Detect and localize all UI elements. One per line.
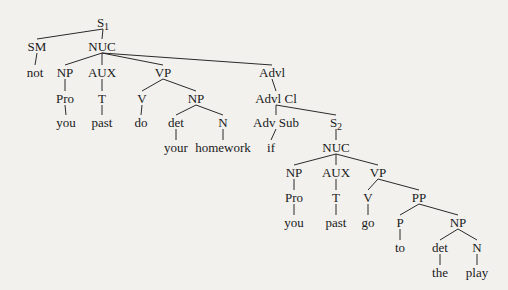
tree-node-to: to (395, 241, 405, 254)
edge-np2-n1 (196, 105, 223, 115)
node-label: SM (28, 39, 47, 54)
edge-vp2-pp (378, 179, 419, 190)
tree-node-advl: Advl (259, 66, 285, 79)
tree-node-n1: N (218, 116, 227, 129)
tree-node-s1: S1 (97, 16, 109, 29)
node-label: past (326, 215, 347, 230)
node-label: VP (155, 65, 172, 80)
node-label: you (284, 215, 304, 230)
node-label: NP (188, 91, 205, 106)
node-label: do (135, 115, 148, 130)
node-label: VP (370, 165, 387, 180)
edge-np2-det1 (176, 105, 196, 115)
node-label: Pro (56, 91, 74, 106)
node-label: T (332, 190, 340, 205)
tree-node-np2: NP (188, 92, 205, 105)
tree-node-np3: NP (286, 166, 303, 179)
tree-node-pp: PP (412, 191, 426, 204)
node-label: homework (195, 140, 251, 155)
node-label: play (466, 265, 488, 280)
node-subscript: 1 (104, 21, 109, 32)
tree-node-go: go (362, 216, 375, 229)
tree-node-advlcl: Advl Cl (255, 92, 297, 105)
tree-node-np4: NP (450, 216, 467, 229)
node-label: NP (57, 65, 74, 80)
tree-node-past1: past (92, 116, 113, 129)
tree-node-nuc1: NUC (88, 40, 115, 53)
node-label: the (432, 265, 448, 280)
edge-vp2-v2 (368, 179, 378, 190)
tree-node-v2: V (363, 191, 372, 204)
edge-v1-do (141, 105, 142, 115)
tree-node-np1: NP (57, 66, 74, 79)
tree-node-sm: SM (28, 40, 47, 53)
edge-nuc1-advl (102, 53, 272, 65)
edge-nuc2-vp2 (336, 154, 378, 165)
tree-node-s2: S2 (330, 116, 342, 129)
node-label: past (92, 115, 113, 130)
node-label: P (396, 215, 403, 230)
tree-node-not: not (27, 66, 44, 79)
tree-node-advsub: Adv Sub (253, 116, 299, 129)
tree-node-t2: T (332, 191, 340, 204)
node-label: you (56, 115, 76, 130)
node-label: go (362, 215, 375, 230)
node-subscript: 2 (337, 121, 342, 132)
node-label: T (98, 91, 106, 106)
node-label: det (168, 115, 184, 130)
edge-advsub-if (271, 129, 276, 140)
tree-node-play: play (466, 266, 488, 279)
tree-node-aux1: AUX (88, 66, 116, 79)
tree-node-pro1: Pro (56, 92, 74, 105)
tree-node-you2: you (284, 216, 304, 229)
tree-node-aux2: AUX (322, 166, 350, 179)
tree-node-the: the (432, 266, 448, 279)
tree-node-if: if (267, 141, 275, 154)
node-label: Pro (285, 190, 303, 205)
tree-node-n2: N (472, 241, 481, 254)
edge-vp1-np2 (163, 79, 196, 91)
node-label: AUX (88, 65, 116, 80)
tree-node-vp2: VP (370, 166, 387, 179)
edge-sm-not (35, 53, 37, 65)
edge-advl-advlcl (272, 79, 276, 91)
node-label: N (472, 240, 481, 255)
node-label: NUC (322, 140, 349, 155)
edge-s1-nuc1 (102, 29, 103, 39)
tree-node-pro2: Pro (285, 191, 303, 204)
node-label: NUC (88, 39, 115, 54)
edge-np4-n2 (458, 229, 477, 240)
tree-node-homework: homework (195, 141, 251, 154)
node-label: Advl Cl (255, 91, 297, 106)
edge-pp-p (400, 204, 419, 215)
node-label: Adv Sub (253, 115, 299, 130)
edge-vp1-v1 (142, 79, 163, 91)
tree-node-det2: det (432, 241, 448, 254)
tree-node-v1: V (137, 92, 146, 105)
edge-nuc2-np3 (294, 154, 336, 165)
edge-np4-det2 (440, 229, 458, 240)
tree-node-det1: det (168, 116, 184, 129)
tree-node-vp1: VP (155, 66, 172, 79)
node-label: V (137, 91, 146, 106)
edge-pp-np4 (419, 204, 458, 215)
node-label: N (218, 115, 227, 130)
tree-node-do: do (135, 116, 148, 129)
tree-node-nuc2: NUC (322, 141, 349, 154)
tree-node-past2: past (326, 216, 347, 229)
node-label: NP (450, 215, 467, 230)
edge-advlcl-s2 (276, 105, 336, 115)
edge-nuc1-np1 (65, 53, 102, 65)
node-label: if (267, 140, 275, 155)
node-label: your (164, 140, 188, 155)
edge-s1-sm (37, 29, 103, 39)
tree-node-you1: you (56, 116, 76, 129)
node-label: AUX (322, 165, 350, 180)
node-label: PP (412, 190, 426, 205)
node-label: det (432, 240, 448, 255)
node-label: NP (286, 165, 303, 180)
edge-pro1-you1 (65, 105, 66, 115)
node-label: V (363, 190, 372, 205)
tree-node-your: your (164, 141, 188, 154)
tree-node-t1: T (98, 92, 106, 105)
